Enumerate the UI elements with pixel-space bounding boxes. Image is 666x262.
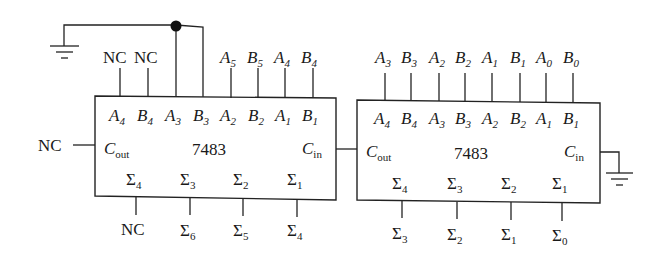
ext-label-a4: A4 — [273, 48, 290, 69]
svg-text:A3: A3 — [374, 48, 391, 69]
svg-text:A2: A2 — [428, 48, 445, 69]
left-output-pins — [136, 197, 297, 217]
svg-text:Σ0: Σ0 — [552, 226, 568, 247]
svg-text:Σ6: Σ6 — [180, 221, 196, 242]
left-input-pins — [120, 68, 313, 98]
right-output-pins — [402, 201, 562, 221]
svg-text:Σ3: Σ3 — [392, 224, 408, 245]
left-nc-label-1: NC — [103, 48, 127, 67]
ext-label-b4: B4 — [301, 48, 317, 69]
svg-text:NC: NC — [121, 220, 145, 239]
junction-dot — [171, 21, 182, 32]
svg-text:Σ5: Σ5 — [233, 221, 249, 242]
adder-diagram: NC NC A5 B5 A4 B4 A4 B4 A3 B3 A2 B2 A1 B… — [0, 0, 666, 262]
ground-icon — [50, 37, 79, 58]
svg-text:Σ1: Σ1 — [501, 225, 516, 246]
svg-text:Σ2: Σ2 — [447, 225, 462, 246]
svg-text:A1: A1 — [481, 48, 498, 69]
ext-label-a5: A5 — [219, 48, 236, 69]
right-outside-output-labels: Σ3 Σ2 Σ1 Σ0 — [392, 224, 568, 247]
left-cout-nc-label: NC — [38, 136, 62, 155]
svg-text:B0: B0 — [563, 48, 579, 69]
left-7483-chip: NC NC A5 B5 A4 B4 A4 B4 A3 B3 A2 B2 A1 B… — [38, 48, 336, 242]
right-7483-chip: A3 B3 A2 B2 A1 B1 A0 B0 A4 B4 A3 B3 A2 B… — [357, 48, 633, 247]
right-input-pins — [385, 73, 573, 103]
right-outside-input-labels: A3 B3 A2 B2 A1 B1 A0 B0 — [374, 48, 579, 69]
right-part-number: 7483 — [454, 144, 488, 163]
svg-text:Σ4: Σ4 — [287, 221, 303, 242]
svg-text:B2: B2 — [455, 48, 471, 69]
ext-label-b5: B5 — [247, 48, 263, 69]
svg-text:B1: B1 — [510, 48, 526, 69]
svg-text:A0: A0 — [535, 48, 552, 69]
left-outside-output-labels: NC Σ6 Σ5 Σ4 — [121, 220, 303, 242]
right-cin-ground-icon — [600, 152, 633, 185]
left-part-number: 7483 — [192, 140, 226, 159]
svg-text:B3: B3 — [401, 48, 417, 69]
left-nc-label-2: NC — [134, 48, 158, 67]
